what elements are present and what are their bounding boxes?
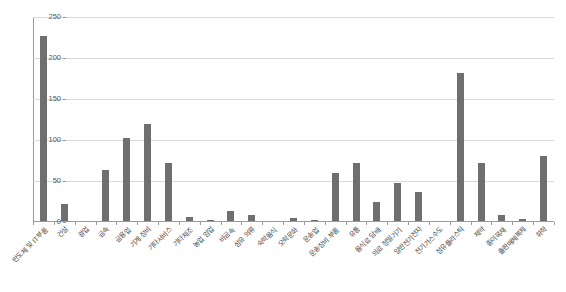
x-tick-label: 금속 (97, 226, 110, 239)
y-tick-mark (63, 181, 66, 182)
y-tick-label: 100 (48, 136, 61, 144)
y-tick-mark (63, 17, 66, 18)
y-tick-mark (63, 140, 66, 141)
x-tick-label: 농업 임업 (192, 226, 215, 249)
x-tick-mark (54, 222, 55, 225)
bar[interactable] (478, 163, 485, 222)
x-tick-label: 유통 (348, 226, 361, 239)
x-tick-mark (387, 222, 388, 225)
bar[interactable] (144, 124, 151, 222)
bar[interactable] (165, 163, 172, 222)
bar[interactable] (415, 192, 422, 222)
x-tick-label: 광업 (77, 226, 90, 239)
x-tick-mark (179, 222, 180, 225)
bar[interactable] (353, 163, 360, 222)
x-tick-label: 금융업 (114, 226, 132, 244)
x-tick-mark (533, 222, 534, 225)
bar-chart: 050100150200250 반도체 및 IT부품건설광업금속금융업기계 장비… (0, 0, 566, 292)
x-tick-mark (554, 222, 555, 225)
y-tick-mark (63, 58, 66, 59)
y-tick-label: 250 (48, 13, 61, 21)
y-tick-label: 50 (53, 177, 61, 185)
x-axis-labels: 반도체 및 IT부품건설광업금속금융업기계 장비기타서비스기타제조농업 임업비금… (33, 226, 554, 292)
x-tick-mark (75, 222, 76, 225)
bar[interactable] (540, 156, 547, 222)
bars-group (33, 17, 554, 222)
x-tick-mark (283, 222, 284, 225)
bar[interactable] (332, 173, 339, 222)
x-tick-mark (408, 222, 409, 225)
x-tick-mark (200, 222, 201, 225)
x-tick-label: 섬유 의류 (233, 226, 256, 249)
plot-area: 050100150200250 (33, 17, 554, 222)
x-tick-mark (221, 222, 222, 225)
x-tick-label: 운송업 (302, 226, 320, 244)
x-tick-mark (304, 222, 305, 225)
x-tick-mark (137, 222, 138, 225)
x-tick-label: 화학 (535, 226, 548, 239)
x-tick-label: 반도체 및 IT부품 (11, 226, 49, 264)
x-tick-mark (512, 222, 513, 225)
bar[interactable] (394, 183, 401, 222)
x-tick-label: 비금속 (218, 226, 236, 244)
y-tick-mark (63, 99, 66, 100)
bar[interactable] (123, 138, 130, 222)
x-tick-mark (158, 222, 159, 225)
x-tick-mark (450, 222, 451, 225)
x-tick-label: 건설 (56, 226, 69, 239)
x-tick-mark (116, 222, 117, 225)
y-axis-ticks: 050100150200250 (33, 17, 66, 222)
x-tick-mark (325, 222, 326, 225)
x-tick-mark (471, 222, 472, 225)
x-tick-mark (346, 222, 347, 225)
y-tick-label: 200 (48, 54, 61, 62)
x-tick-mark (262, 222, 263, 225)
bar[interactable] (102, 170, 109, 222)
bar[interactable] (373, 202, 380, 222)
x-tick-mark (491, 222, 492, 225)
x-tick-mark (33, 222, 34, 225)
x-tick-mark (96, 222, 97, 225)
x-tick-label: 제약 (473, 226, 486, 239)
x-tick-label: 숙박음식 (256, 226, 278, 248)
x-tick-mark (366, 222, 367, 225)
x-tick-label: 오락문화 (277, 226, 299, 248)
x-tick-mark (429, 222, 430, 225)
x-tick-label: 기타제조 (172, 226, 194, 248)
bar[interactable] (457, 73, 464, 222)
y-tick-label: 150 (48, 95, 61, 103)
x-tick-mark (241, 222, 242, 225)
